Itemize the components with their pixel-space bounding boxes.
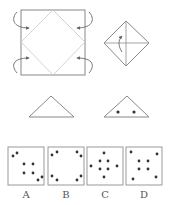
option-dot [155,176,158,179]
option-dot [107,168,110,171]
option-dot [12,155,15,158]
option-b-box[interactable] [48,147,84,185]
option-dot [16,152,19,155]
option-dot [103,152,106,155]
option-dot [76,179,79,182]
option-dot [90,165,93,168]
option-dot [138,168,141,171]
option-dot [156,153,159,156]
curved-arrow-icon [119,36,122,52]
option-dot [147,160,150,163]
option-dot [23,163,26,166]
step1-square [14,10,93,75]
option-dot [103,176,106,179]
option-dot [23,172,26,175]
option-dot [99,168,102,171]
option-dot [147,168,150,171]
option-dot [32,163,35,166]
option-dot [116,165,119,168]
answer-options [8,147,162,185]
step4-triangle-with-holes [104,96,149,117]
option-dot [76,151,79,154]
option-a-label[interactable]: A [8,189,44,200]
option-d-label[interactable]: D [126,189,162,200]
option-dot [138,160,141,163]
option-b-label[interactable]: B [48,189,84,200]
option-dot [132,178,135,181]
hole-dot [116,110,119,113]
option-dot [56,151,59,154]
option-dot [107,160,110,163]
option-c-label[interactable]: C [87,189,123,200]
option-dot [80,155,83,158]
option-dot [32,172,35,175]
fold-diamond [21,10,85,75]
option-dot [51,154,54,157]
option-dot [56,179,59,182]
option-dot [130,151,133,154]
folding-puzzle-diagram [0,0,171,205]
option-dot [51,175,54,178]
option-dot [37,179,40,182]
option-dot [80,175,83,178]
step3-triangle [29,96,74,117]
hole-dot [132,110,135,113]
option-dot [41,176,44,179]
step2-diamond [104,21,149,66]
option-dot [99,160,102,163]
